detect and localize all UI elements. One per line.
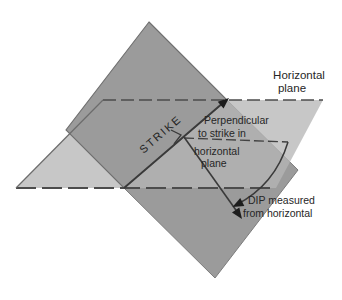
perpendicular-label-line2: to strike in xyxy=(198,127,246,139)
perpendicular-label-line4: plane xyxy=(201,157,227,169)
diagram-canvas: Horizontal plane STRIKE Perpendicular to… xyxy=(0,0,342,300)
horizontal-plane-label-line1: Horizontal xyxy=(273,69,325,81)
horizontal-plane-label-line2: plane xyxy=(278,82,306,94)
perpendicular-label-line3: horizontal xyxy=(194,145,240,157)
dip-label-line1: DIP measured xyxy=(248,194,315,206)
perpendicular-label-line1: Perpendicular xyxy=(204,114,269,126)
strike-dip-diagram: Horizontal plane STRIKE Perpendicular to… xyxy=(0,0,342,300)
dip-label-line2: from horizontal xyxy=(243,207,312,219)
